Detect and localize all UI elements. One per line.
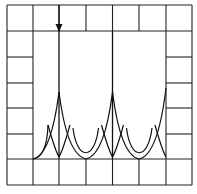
cusp-diagram (0, 0, 197, 194)
cusp-inner-left-arc (102, 125, 113, 157)
cusp-inner-left-arc (155, 125, 166, 157)
cusp-inner-right-arc (113, 125, 124, 157)
waveform (33, 31, 166, 159)
bowl-arc (33, 125, 48, 159)
bowl-arc (73, 128, 99, 153)
cusp-inner-left-arc (48, 125, 59, 157)
arrow-marker (56, 5, 63, 32)
cusp-inner-right-arc (59, 125, 70, 157)
bowl-arc (127, 128, 153, 153)
